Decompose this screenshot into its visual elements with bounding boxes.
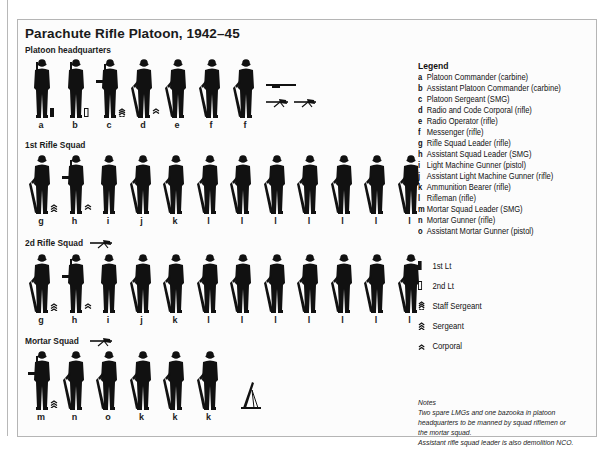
figure-code-label: c [94, 120, 124, 130]
legend-text: Assistant Platoon Commander (carbine) [427, 83, 561, 93]
soldier-figure: k [160, 253, 190, 315]
legend-code: n [418, 215, 427, 226]
figure-code-label: l [328, 315, 358, 325]
soldier-figure: k [160, 154, 190, 216]
soldier-figure: i [93, 253, 123, 315]
soldier-figure: k [127, 350, 157, 412]
legend-code: o [418, 226, 427, 237]
soldier-figure: l [194, 253, 224, 315]
soldier-figure: m [26, 350, 56, 412]
notes-text: Two spare LMGs and one bazooka in platoo… [418, 408, 589, 448]
section-label-squad2: 2d Rifle Squad [25, 237, 83, 248]
legend-item: jAssistant Light Machine Gunner (rifle) [418, 171, 572, 182]
rank-legend-text: 2nd Lt [432, 281, 454, 291]
squad1-row: g h i j k l l l l l [18, 154, 418, 224]
figure-code-label: g [26, 216, 56, 226]
rank-legend-item: 2nd Lt [418, 280, 482, 300]
legend-item: fMessenger (rifle) [418, 127, 572, 138]
figure-code-label: e [162, 120, 192, 130]
legend-code: e [418, 116, 427, 127]
rank-legend-item: 1st Lt [418, 260, 482, 280]
notes-line: the mortar squad. [418, 428, 589, 438]
soldier-figure: h [60, 253, 90, 315]
figure-code-label: l [194, 315, 224, 325]
soldier-figure: l [261, 154, 291, 216]
figure-code-label: l [294, 315, 324, 325]
soldier-figure: h [60, 154, 90, 216]
1st-lt-rank-icon [418, 261, 432, 273]
legend-text: Messenger (rifle) [427, 127, 484, 137]
diagram-frame: Parachute Rifle Platoon, 1942–45 Platoon… [17, 19, 597, 437]
soldier-figure: o [93, 350, 123, 412]
rank-legend-item: Sergeant [418, 320, 482, 340]
legend-code: i [418, 160, 427, 171]
figure-code-label: i [93, 216, 123, 226]
soldier-figure: l [328, 253, 358, 315]
bazooka-icon [266, 76, 296, 94]
legend-text: Radio Operator (rifle) [427, 116, 498, 126]
soldier-figure: f [196, 58, 226, 120]
legend-item: hAssistant Squad Leader (SMG) [418, 149, 572, 160]
light-machine-gun-icon [90, 235, 116, 253]
figure-code-label: k [127, 412, 157, 422]
legend-code: a [418, 72, 427, 83]
figure-code-label: l [361, 315, 391, 325]
legend-text: Assistant Mortar Gunner (pistol) [427, 226, 534, 236]
notes-title: Notes [418, 398, 589, 408]
soldier-figure: i [93, 154, 123, 216]
legend-code: b [418, 83, 427, 94]
legend-text: Mortar Gunner (rifle) [427, 215, 496, 225]
legend-code: g [418, 138, 427, 149]
legend-text: Platoon Commander (carbine) [427, 72, 528, 82]
legend: Legend aPlatoon Commander (carbine)bAssi… [418, 60, 593, 237]
legend-item: dRadio and Code Corporal (rifle) [418, 105, 572, 116]
soldier-figure: l [261, 253, 291, 315]
soldier-figure: j [127, 154, 157, 216]
legend-item: mMortar Squad Leader (SMG) [418, 204, 572, 215]
soldier-figure: k [160, 350, 190, 412]
soldier-figure: a [26, 58, 56, 120]
soldier-figure: l [361, 253, 391, 315]
legend-code: c [418, 94, 427, 105]
soldier-figure: g [26, 154, 56, 216]
legend-code: h [418, 149, 427, 160]
rank-legend-text: 1st Lt [432, 261, 451, 271]
legend-text: Mortar Squad Leader (SMG) [427, 204, 523, 214]
rank-legend-item: Corporal [418, 340, 482, 360]
figure-code-label: l [261, 315, 291, 325]
figure-code-label: j [127, 216, 157, 226]
legend-text: Rifle Squad Leader (rifle) [427, 138, 511, 148]
soldier-figure: j [127, 253, 157, 315]
staff-sergeant-rank-icon [418, 301, 432, 313]
figure-code-label: l [294, 216, 324, 226]
figure-code-label: l [227, 315, 257, 325]
section-label-mortar: Mortar Squad [25, 335, 79, 346]
squad2-row: g h i j k l l l l l [18, 253, 418, 323]
notes-line: headquarters to be manned by squad rifle… [418, 418, 589, 428]
legend-item: aPlatoon Commander (carbine) [418, 72, 572, 83]
figure-code-label: f [230, 120, 260, 130]
soldier-figure: n [60, 350, 90, 412]
legend-code: f [418, 127, 427, 138]
section-label-squad1: 1st Rifle Squad [25, 139, 85, 150]
sergeant-rank-icon [418, 321, 432, 333]
legend-item: gRifle Squad Leader (rifle) [418, 138, 572, 149]
legend-code: d [418, 105, 427, 116]
figure-code-label: l [194, 216, 224, 226]
figure-code-label: l [328, 216, 358, 226]
light-machine-gun-icon [294, 94, 320, 112]
legend-item: oAssistant Mortar Gunner (pistol) [418, 226, 572, 237]
figure-code-label: d [128, 120, 158, 130]
soldier-figure: l [294, 154, 324, 216]
figure-code-label: l [227, 216, 257, 226]
rank-legend-text: Corporal [432, 341, 462, 351]
rank-legend-text: Sergeant [432, 321, 463, 331]
legend-item: cPlatoon Sergeant (SMG) [418, 94, 572, 105]
legend-text: Assistant Squad Leader (SMG) [427, 149, 532, 159]
legend-item: eRadio Operator (rifle) [418, 116, 572, 127]
figure-code-label: a [26, 120, 56, 130]
figure-code-label: b [60, 120, 90, 130]
figure-code-label: l [361, 216, 391, 226]
legend-text: Assistant Light Machine Gunner (rifle) [427, 171, 554, 181]
legend-item: nMortar Gunner (rifle) [418, 215, 572, 226]
